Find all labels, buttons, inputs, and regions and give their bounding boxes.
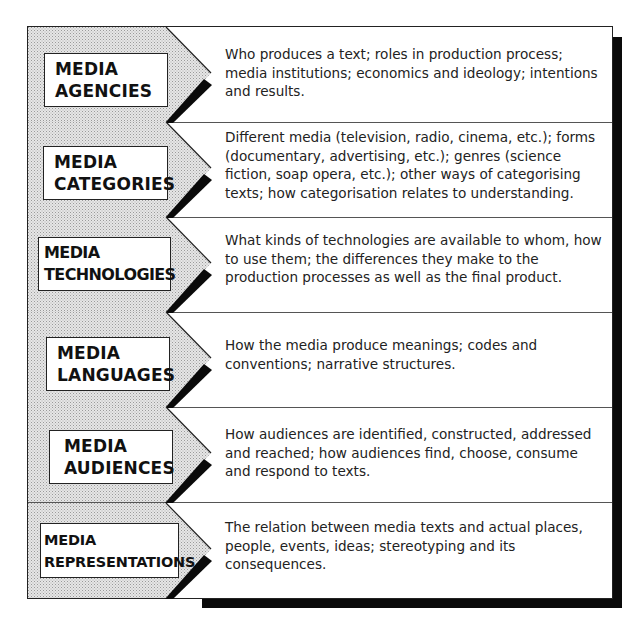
label-line1: MEDIA xyxy=(44,529,178,551)
row-media-categories: MEDIA CATEGORIES Different media (televi… xyxy=(28,122,612,218)
description-media-technologies: What kinds of technologies are available… xyxy=(225,231,605,287)
row-media-representations: MEDIA REPRESENTATIONS The relation betwe… xyxy=(28,503,612,598)
label-media-categories: MEDIA CATEGORIES xyxy=(43,146,168,200)
label-line1: MEDIA xyxy=(64,435,172,457)
row-media-languages: MEDIA LANGUAGES How the media produce me… xyxy=(28,312,612,408)
description-media-categories: Different media (television, radio, cine… xyxy=(225,128,605,202)
description-media-agencies: Who produces a text; roles in production… xyxy=(225,45,605,101)
label-media-agencies: MEDIA AGENCIES xyxy=(44,53,168,107)
media-concepts-diagram: MEDIA AGENCIES Who produces a text; role… xyxy=(27,26,613,599)
label-media-technologies: MEDIA TECHNOLOGIES xyxy=(38,237,171,291)
label-line2: AGENCIES xyxy=(55,80,167,102)
label-media-audiences: MEDIA AUDIENCES xyxy=(49,430,173,484)
frame-shadow-right xyxy=(612,37,622,608)
description-media-audiences: How audiences are identified, constructe… xyxy=(225,425,605,481)
label-line1: MEDIA xyxy=(55,58,167,80)
row-media-audiences: MEDIA AUDIENCES How audiences are identi… xyxy=(28,407,612,503)
label-line2: CATEGORIES xyxy=(54,173,167,195)
label-media-representations: MEDIA REPRESENTATIONS xyxy=(40,523,179,578)
row-media-technologies: MEDIA TECHNOLOGIES What kinds of technol… xyxy=(28,217,612,313)
description-media-representations: The relation between media texts and act… xyxy=(225,518,605,574)
row-media-agencies: MEDIA AGENCIES Who produces a text; role… xyxy=(28,27,612,123)
label-line2: AUDIENCES xyxy=(64,457,172,479)
label-line2: REPRESENTATIONS xyxy=(44,551,178,573)
label-media-languages: MEDIA LANGUAGES xyxy=(46,337,170,391)
label-line2: TECHNOLOGIES xyxy=(44,264,170,286)
frame-shadow-bottom xyxy=(202,598,622,608)
label-line2: LANGUAGES xyxy=(57,364,169,386)
label-line1: MEDIA xyxy=(57,342,169,364)
label-line1: MEDIA xyxy=(44,242,170,264)
label-line1: MEDIA xyxy=(54,151,167,173)
description-media-languages: How the media produce meanings; codes an… xyxy=(225,336,605,373)
